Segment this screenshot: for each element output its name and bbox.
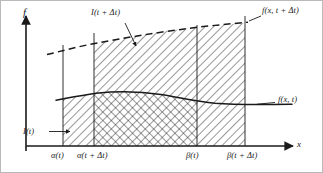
- x-tick-label-beta-t: β(t): [186, 151, 199, 160]
- y-axis-label: f: [23, 7, 26, 18]
- region-I-t-left-sliver: [63, 93, 94, 146]
- label-integral-t-plus-dt: I(t + Δt): [91, 8, 120, 17]
- label-integral-t: I(t): [23, 127, 34, 136]
- x-tick-label-beta-t-plus-dt: β(t + Δt): [227, 151, 258, 160]
- figure-canvas: [1, 1, 323, 173]
- callout-line-f-x-t-plus-dt: [249, 16, 261, 21]
- label-curve-f-x-t: f(x, t): [278, 95, 297, 104]
- x-tick-label-alpha-t-plus-dt: α(t + Δt): [77, 151, 108, 160]
- region-I-t-overlap: [94, 92, 197, 146]
- figure-container: f x I(t) I(t + Δt) f(x, t) f(x, t + Δt) …: [0, 0, 323, 173]
- x-tick-label-alpha-t: α(t): [51, 151, 64, 160]
- x-axis-label: x: [297, 140, 301, 149]
- label-curve-f-x-t-plus-dt: f(x, t + Δt): [262, 6, 299, 15]
